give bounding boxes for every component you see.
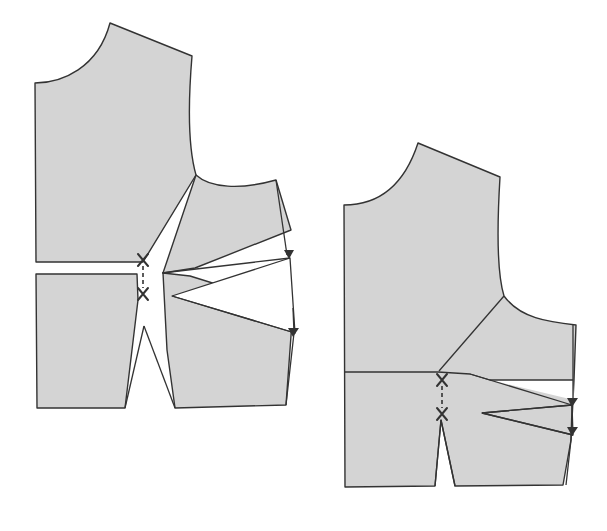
left-arrow-upper-icon (284, 250, 294, 259)
left-lower-center-panel (36, 274, 138, 408)
pattern-diagram (0, 0, 607, 531)
right-figure (344, 143, 578, 487)
left-figure (35, 23, 299, 408)
left-upper-bodice-piece (35, 23, 196, 262)
left-cross-mark-bottom-icon (138, 288, 148, 300)
right-bodice-piece (344, 143, 576, 487)
